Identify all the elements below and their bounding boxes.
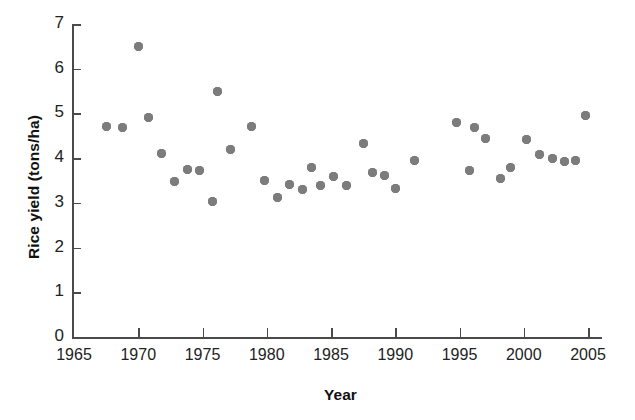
data-point xyxy=(157,149,166,158)
y-tick xyxy=(72,248,81,250)
data-point xyxy=(144,113,153,122)
y-tick-label: 4 xyxy=(38,147,64,167)
y-tick-label: 7 xyxy=(38,13,64,33)
data-point xyxy=(183,165,192,174)
x-tick xyxy=(331,328,333,338)
x-tick xyxy=(203,328,205,338)
y-tick-label: 1 xyxy=(38,281,64,301)
plot-area: 0123456719651970197519801985199019952000… xyxy=(0,0,635,420)
x-tick xyxy=(460,328,462,338)
x-tick-label: 1975 xyxy=(176,346,230,364)
data-point xyxy=(391,184,400,193)
data-point xyxy=(452,118,461,127)
y-tick xyxy=(72,292,81,294)
data-point xyxy=(226,145,235,154)
x-tick-label: 1970 xyxy=(111,346,165,364)
data-point xyxy=(522,135,531,144)
data-point xyxy=(329,172,338,181)
y-tick xyxy=(72,158,81,160)
data-point xyxy=(380,171,389,180)
y-tick xyxy=(72,203,81,205)
data-point xyxy=(410,156,419,165)
data-point xyxy=(548,154,557,163)
x-tick-label: 2000 xyxy=(497,346,551,364)
y-tick-label: 0 xyxy=(38,326,64,346)
data-point xyxy=(465,166,474,175)
x-tick-label: 1985 xyxy=(304,346,358,364)
data-point xyxy=(506,163,515,172)
x-tick xyxy=(524,328,526,338)
data-point xyxy=(213,87,222,96)
scatter-chart: Rice yield (tons/ha) Year 01234567196519… xyxy=(0,0,635,420)
x-tick-label: 1990 xyxy=(368,346,422,364)
y-tick xyxy=(72,24,81,26)
data-point xyxy=(535,150,544,159)
x-tick-label: 1980 xyxy=(240,346,294,364)
y-tick xyxy=(72,69,81,71)
x-tick xyxy=(138,328,140,338)
data-point xyxy=(571,156,580,165)
data-point xyxy=(581,111,590,120)
x-tick-label: 1995 xyxy=(433,346,487,364)
data-point xyxy=(195,166,204,175)
x-tick xyxy=(588,328,590,338)
y-axis-line xyxy=(72,24,74,338)
data-point xyxy=(316,181,325,190)
data-point xyxy=(470,123,479,132)
data-point xyxy=(342,181,351,190)
x-tick xyxy=(395,328,397,338)
data-point xyxy=(118,123,127,132)
y-tick xyxy=(72,113,81,115)
data-point xyxy=(285,180,294,189)
data-point xyxy=(368,168,377,177)
x-tick-label: 1965 xyxy=(47,346,101,364)
data-point xyxy=(359,139,368,148)
data-point xyxy=(496,174,505,183)
data-point xyxy=(260,176,269,185)
data-point xyxy=(560,157,569,166)
x-tick xyxy=(267,328,269,338)
data-point xyxy=(102,122,111,131)
data-point xyxy=(307,163,316,172)
y-tick-label: 2 xyxy=(38,237,64,257)
data-point xyxy=(298,185,307,194)
y-tick-label: 6 xyxy=(38,58,64,78)
data-point xyxy=(134,42,143,51)
y-tick-label: 3 xyxy=(38,192,64,212)
data-point xyxy=(247,122,256,131)
data-point xyxy=(481,134,490,143)
data-point xyxy=(208,197,217,206)
data-point xyxy=(273,193,282,202)
data-point xyxy=(170,177,179,186)
y-tick-label: 5 xyxy=(38,102,64,122)
x-tick-label: 2005 xyxy=(561,346,615,364)
x-axis-line xyxy=(72,337,602,339)
